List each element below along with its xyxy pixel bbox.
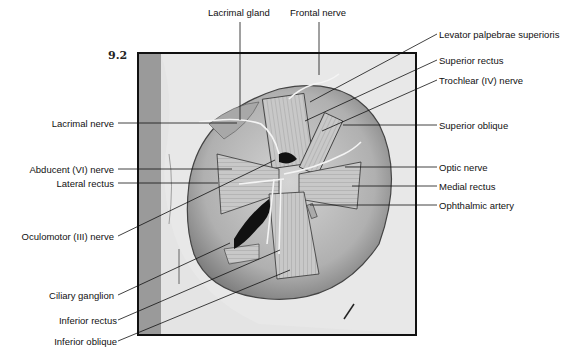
label-ophthalmic-artery: Ophthalmic artery xyxy=(439,200,514,211)
figure-number: 9.2 xyxy=(108,49,127,62)
orbit-illustration xyxy=(139,54,415,334)
orbital-rim-shadow xyxy=(139,54,161,334)
label-oculomotor-nerve: Oculomotor (III) nerve xyxy=(22,231,114,242)
label-superior-rectus: Superior rectus xyxy=(439,55,503,66)
label-lacrimal-nerve: Lacrimal nerve xyxy=(52,118,114,129)
label-ciliary-ganglion: Ciliary ganglion xyxy=(49,290,114,301)
label-optic-nerve: Optic nerve xyxy=(439,162,488,173)
label-frontal-nerve: Frontal nerve xyxy=(290,7,346,18)
label-trochlear-nerve: Trochlear (IV) nerve xyxy=(439,75,523,86)
label-inferior-oblique: Inferior oblique xyxy=(54,336,117,347)
anatomical-illustration-frame xyxy=(137,52,417,336)
label-lateral-rectus: Lateral rectus xyxy=(56,178,114,189)
label-abducent-nerve: Abducent (VI) nerve xyxy=(30,164,115,175)
label-lacrimal-gland: Lacrimal gland xyxy=(208,7,270,18)
label-levator-palpebrae-superioris: Levator palpebrae superioris xyxy=(439,29,559,40)
label-medial-rectus: Medial rectus xyxy=(439,181,496,192)
label-inferior-rectus: Inferior rectus xyxy=(59,315,117,326)
label-superior-oblique: Superior oblique xyxy=(439,120,508,131)
